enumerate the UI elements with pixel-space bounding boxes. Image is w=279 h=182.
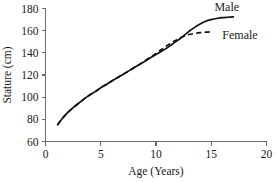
y-axis-title: Stature (cm) [1,46,14,103]
x-tick-label: 15 [206,148,218,160]
x-axis-title: Age (Years) [128,165,184,178]
y-tick-label: 120 [21,69,39,81]
x-tick-label: 20 [261,148,273,160]
growth-chart: 608010012014016018005101520Age (Years)St… [0,0,279,182]
x-tick-label: 10 [150,148,162,160]
series-curve-female [58,32,212,125]
y-tick-label: 60 [27,136,39,148]
x-tick-label: 5 [98,148,104,160]
y-tick-label: 140 [21,47,39,59]
series-curve-male [58,17,234,125]
series-label-female: Female [222,28,257,42]
x-tick-label: 0 [43,148,49,160]
y-tick-label: 180 [21,3,39,15]
y-tick-label: 160 [21,25,39,37]
chart-canvas: 608010012014016018005101520Age (Years)St… [0,0,279,182]
y-tick-label: 80 [27,113,39,125]
series-label-male: Male [214,0,239,14]
y-tick-label: 100 [21,91,39,103]
